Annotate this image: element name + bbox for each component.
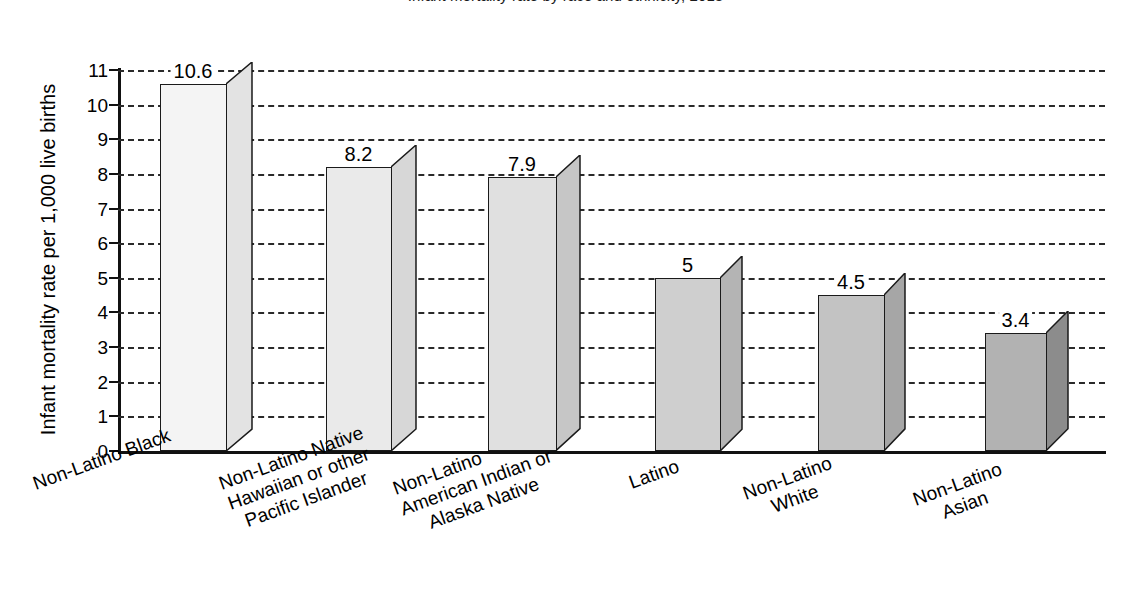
gridline xyxy=(118,139,1105,141)
y-axis-tick-label: 2 xyxy=(78,372,108,391)
plot-area: 10.68.27.954.53.4 xyxy=(118,70,1105,451)
y-axis-tick xyxy=(109,208,118,210)
y-axis-tick-label: 8 xyxy=(78,164,108,183)
bar[interactable]: 4.5 xyxy=(818,273,905,451)
y-axis-tick xyxy=(109,138,118,140)
y-axis-tick xyxy=(109,311,118,313)
y-axis-tick-label: 10 xyxy=(78,95,108,114)
bar-side-face xyxy=(884,273,905,451)
y-axis-tick xyxy=(109,104,118,106)
bar-value-label: 8.2 xyxy=(342,144,376,164)
bar-front-face xyxy=(985,333,1047,451)
gridline xyxy=(118,312,1105,314)
bar-side-face xyxy=(226,62,252,451)
y-axis-tick-label: 7 xyxy=(78,199,108,218)
y-axis-tick xyxy=(109,173,118,175)
bar-side-face xyxy=(720,256,742,451)
gridline xyxy=(118,243,1105,245)
category-label: Non-LatinoAsian xyxy=(910,458,1013,532)
y-axis-tick xyxy=(109,277,118,279)
gridline xyxy=(118,278,1105,280)
bar-front-face xyxy=(655,278,721,451)
bar-value-label: 5 xyxy=(679,255,696,275)
gridline xyxy=(118,105,1105,107)
bar-front-face xyxy=(818,295,885,451)
infant-mortality-bar-chart: Infant mortality rate by race and ethnic… xyxy=(0,0,1131,600)
bar-front-face xyxy=(160,84,227,451)
bar-value-label: 10.6 xyxy=(171,61,216,81)
bar[interactable]: 5 xyxy=(655,256,742,451)
category-label: Latino xyxy=(626,455,682,494)
y-axis-tick-labels: 01234567891011 xyxy=(76,70,108,451)
y-axis-tick xyxy=(109,69,118,71)
bar-value-label: 3.4 xyxy=(999,310,1033,330)
y-axis-tick-label: 6 xyxy=(78,234,108,253)
y-axis-tick xyxy=(109,346,118,348)
gridline xyxy=(118,174,1105,176)
y-axis-tick-label: 3 xyxy=(78,338,108,357)
y-axis-tick xyxy=(109,415,118,417)
y-axis-tick-label: 9 xyxy=(78,130,108,149)
bar-side-face xyxy=(391,145,416,451)
y-axis-tick-label: 11 xyxy=(78,61,108,80)
y-axis-tick-label: 4 xyxy=(78,303,108,322)
gridline xyxy=(118,382,1105,384)
gridline xyxy=(118,347,1105,349)
y-axis-title: Infant mortality rate per 1,000 live bir… xyxy=(37,60,60,460)
gridline xyxy=(118,209,1105,211)
bar[interactable]: 3.4 xyxy=(985,311,1068,451)
bar-side-face xyxy=(556,155,580,451)
bar[interactable]: 8.2 xyxy=(326,145,416,451)
bar-value-label: 4.5 xyxy=(834,272,868,292)
bar[interactable]: 7.9 xyxy=(488,155,580,451)
bar-side-face xyxy=(1046,311,1068,451)
bar-front-face xyxy=(326,167,392,451)
bar[interactable]: 10.6 xyxy=(160,62,252,451)
category-label: Non-LatinoWhite xyxy=(740,452,843,526)
y-axis-tick xyxy=(109,381,118,383)
bar-value-label: 7.9 xyxy=(505,154,539,174)
category-label-line: Latino xyxy=(626,455,682,494)
y-axis-tick-label: 5 xyxy=(78,268,108,287)
y-axis-tick-label: 1 xyxy=(78,407,108,426)
x-axis-line xyxy=(118,451,1106,454)
bar-front-face xyxy=(488,177,557,451)
y-axis-tick xyxy=(109,242,118,244)
gridline xyxy=(118,416,1105,418)
gridline xyxy=(118,70,1105,72)
chart-title: Infant mortality rate by race and ethnic… xyxy=(0,0,1131,4)
